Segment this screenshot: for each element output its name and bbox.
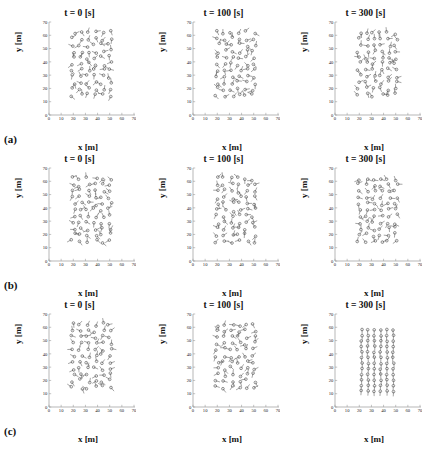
svg-text:30: 30 — [227, 262, 232, 267]
data-markers — [67, 318, 116, 393]
x-axis-label: x [m] — [40, 434, 136, 444]
svg-text:70: 70 — [43, 166, 48, 171]
svg-text:60: 60 — [187, 179, 192, 184]
svg-text:20: 20 — [357, 262, 362, 267]
svg-text:70: 70 — [329, 20, 334, 25]
svg-text:60: 60 — [406, 262, 411, 267]
svg-text:50: 50 — [43, 46, 48, 51]
axes-group: 010203040506070010203040506070 — [43, 20, 136, 121]
svg-text:70: 70 — [187, 20, 192, 25]
svg-text:10: 10 — [329, 245, 334, 250]
svg-text:40: 40 — [95, 116, 100, 121]
svg-text:40: 40 — [187, 352, 192, 357]
svg-text:10: 10 — [187, 99, 192, 104]
axes-group: 010203040506070010203040506070 — [43, 312, 136, 413]
svg-text:50: 50 — [187, 46, 192, 51]
svg-text:30: 30 — [43, 73, 48, 78]
svg-text:50: 50 — [187, 338, 192, 343]
svg-text:60: 60 — [187, 325, 192, 330]
svg-text:40: 40 — [381, 262, 386, 267]
svg-text:60: 60 — [187, 33, 192, 38]
svg-text:40: 40 — [381, 116, 386, 121]
data-markers — [213, 321, 259, 393]
x-axis-label: x [m] — [40, 288, 136, 298]
svg-text:50: 50 — [251, 408, 256, 413]
svg-text:20: 20 — [357, 408, 362, 413]
y-axis-label: y [m] — [299, 178, 309, 198]
svg-text:70: 70 — [276, 262, 280, 267]
data-markers — [354, 27, 401, 98]
y-axis-label: y [m] — [13, 178, 23, 198]
svg-text:70: 70 — [43, 312, 48, 317]
svg-text:30: 30 — [83, 408, 88, 413]
svg-text:10: 10 — [345, 262, 350, 267]
svg-text:50: 50 — [251, 262, 256, 267]
svg-text:20: 20 — [215, 408, 220, 413]
svg-text:60: 60 — [329, 179, 334, 184]
svg-text:70: 70 — [43, 20, 48, 25]
svg-text:30: 30 — [43, 365, 48, 370]
data-markers — [360, 328, 395, 396]
svg-text:60: 60 — [120, 262, 125, 267]
svg-text:10: 10 — [43, 99, 48, 104]
svg-text:20: 20 — [329, 232, 334, 237]
svg-text:0: 0 — [48, 116, 51, 121]
svg-text:10: 10 — [345, 408, 350, 413]
svg-text:50: 50 — [329, 46, 334, 51]
svg-text:10: 10 — [43, 391, 48, 396]
svg-text:0: 0 — [48, 262, 51, 267]
svg-text:10: 10 — [59, 408, 64, 413]
svg-text:50: 50 — [43, 338, 48, 343]
x-axis-label: x [m] — [326, 434, 422, 444]
svg-text:20: 20 — [43, 378, 48, 383]
panel-title: t = 0 [s] — [14, 8, 145, 18]
data-markers — [354, 175, 402, 244]
y-axis-label: y [m] — [299, 324, 309, 344]
svg-text:70: 70 — [418, 408, 422, 413]
svg-text:70: 70 — [132, 262, 136, 267]
plot-panel: t = 300 [s]y [m]x [m]0102030405060700102… — [300, 298, 431, 451]
svg-text:50: 50 — [251, 116, 256, 121]
svg-text:20: 20 — [215, 262, 220, 267]
svg-text:10: 10 — [329, 99, 334, 104]
svg-text:50: 50 — [107, 262, 112, 267]
svg-text:40: 40 — [329, 206, 334, 211]
plot-area: 010203040506070010203040506070 — [184, 312, 280, 416]
svg-text:50: 50 — [393, 116, 398, 121]
panel-title: t = 100 [s] — [158, 8, 289, 18]
svg-text:60: 60 — [264, 262, 269, 267]
svg-text:10: 10 — [203, 262, 208, 267]
plot-area: 010203040506070010203040506070 — [326, 20, 422, 124]
svg-text:20: 20 — [329, 378, 334, 383]
svg-text:40: 40 — [43, 206, 48, 211]
plot-panel: t = 0 [s]y [m]x [m]010203040506070010203… — [14, 6, 145, 159]
svg-text:60: 60 — [406, 408, 411, 413]
x-axis-label: x [m] — [326, 288, 422, 298]
svg-text:60: 60 — [264, 116, 269, 121]
svg-text:40: 40 — [95, 408, 100, 413]
svg-text:10: 10 — [203, 408, 208, 413]
svg-text:30: 30 — [369, 408, 374, 413]
svg-text:30: 30 — [43, 219, 48, 224]
plot-area: 010203040506070010203040506070 — [184, 166, 280, 270]
svg-text:40: 40 — [329, 60, 334, 65]
svg-text:70: 70 — [418, 262, 422, 267]
svg-text:70: 70 — [187, 166, 192, 171]
svg-text:10: 10 — [345, 116, 350, 121]
svg-text:10: 10 — [43, 245, 48, 250]
svg-text:60: 60 — [329, 33, 334, 38]
svg-text:20: 20 — [187, 232, 192, 237]
figure-row-c: (c)t = 0 [s]y [m]x [m]010203040506070010… — [0, 298, 443, 451]
x-axis-label: x [m] — [184, 434, 280, 444]
svg-text:0: 0 — [334, 262, 337, 267]
svg-text:10: 10 — [59, 262, 64, 267]
y-axis-label: y [m] — [13, 32, 23, 52]
svg-text:60: 60 — [43, 325, 48, 330]
plot-panel: t = 300 [s]y [m]x [m]0102030405060700102… — [300, 152, 431, 305]
svg-text:70: 70 — [329, 312, 334, 317]
svg-text:40: 40 — [187, 60, 192, 65]
svg-text:40: 40 — [239, 262, 244, 267]
svg-text:70: 70 — [329, 166, 334, 171]
svg-text:20: 20 — [43, 232, 48, 237]
svg-text:60: 60 — [264, 408, 269, 413]
